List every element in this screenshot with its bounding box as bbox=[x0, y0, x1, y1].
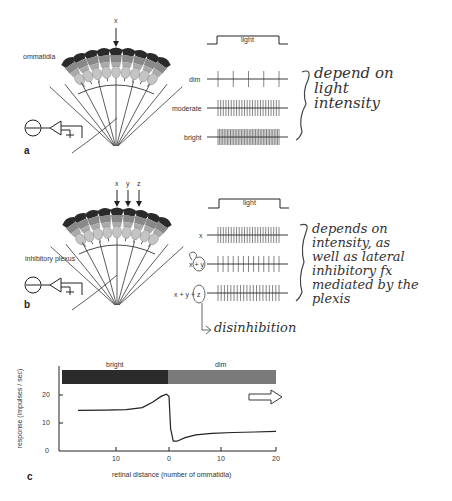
x-tick-10-right: 10 bbox=[217, 455, 225, 462]
panel-letter-c: c bbox=[27, 471, 33, 482]
response-chart bbox=[0, 0, 452, 501]
x-tick-0: 0 bbox=[167, 455, 171, 462]
right-arrow-icon bbox=[249, 390, 282, 404]
x-tick-10-left: 10 bbox=[112, 455, 120, 462]
y-tick-0: 0 bbox=[45, 447, 49, 454]
x-axis-label: retinal distance (number of ommatidia) bbox=[112, 471, 231, 478]
y-axis-label: response (impulses / sec) bbox=[16, 369, 23, 449]
y-tick-20: 20 bbox=[42, 391, 50, 398]
response-curve bbox=[78, 394, 276, 441]
x-tick-20: 20 bbox=[272, 455, 280, 462]
y-tick-10: 10 bbox=[42, 419, 50, 426]
